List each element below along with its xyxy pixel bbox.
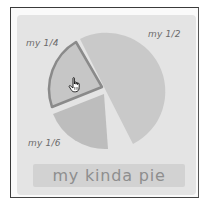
chart-title-bar: my kinda pie: [33, 164, 185, 187]
hand-pointer-cursor-icon: [68, 77, 82, 93]
label-half: my 1/2: [148, 29, 181, 39]
label-quarter: my 1/4: [26, 38, 59, 48]
chart-title: my kinda pie: [52, 166, 165, 185]
label-sixth: my 1/6: [28, 138, 61, 148]
